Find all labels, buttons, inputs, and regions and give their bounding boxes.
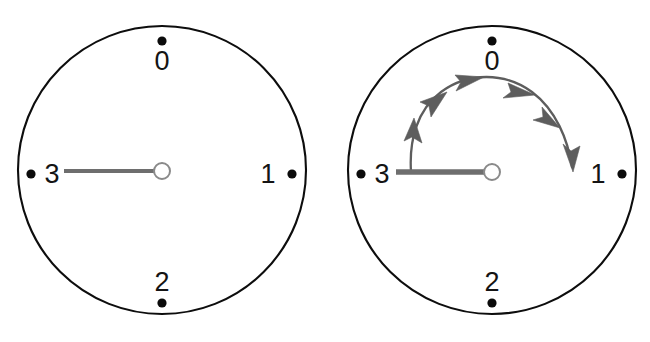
pointer-hub-left	[154, 163, 170, 179]
position-dot-1-left	[287, 169, 296, 178]
position-dot-3-right	[356, 169, 365, 178]
position-dot-0-left	[157, 36, 166, 45]
position-dot-2-left	[157, 298, 166, 307]
position-label-3-right: 3	[374, 159, 389, 189]
position-dot-2-right	[487, 298, 496, 307]
position-label-2-right: 2	[484, 267, 499, 297]
position-label-1-right: 1	[590, 159, 605, 189]
position-label-3-left: 3	[44, 159, 59, 189]
position-label-1-left: 1	[260, 159, 275, 189]
panel-before-rotation: 0 1 2 3	[18, 26, 306, 314]
position-label-0-left: 0	[154, 46, 169, 76]
position-dot-0-right	[487, 36, 496, 45]
pointer-hub-right	[484, 164, 500, 180]
position-label-0-right: 0	[484, 46, 499, 76]
panel-after-rotation: 0 1 2 3	[348, 26, 636, 314]
rotation-figure: 0 1 2 3 0 1 2 3	[0, 0, 650, 342]
position-dot-3-left	[26, 169, 35, 178]
position-label-2-left: 2	[154, 267, 169, 297]
figure-canvas: 0 1 2 3 0 1 2 3	[0, 0, 650, 342]
position-dot-1-right	[617, 169, 626, 178]
